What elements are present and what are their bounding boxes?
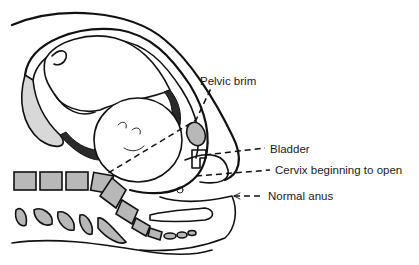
label-anus: Normal anus	[268, 190, 333, 203]
rectum	[150, 208, 213, 222]
perineum	[140, 196, 235, 251]
anatomy-diagram: Pelvic brim Bladder Cervix beginning to …	[0, 0, 419, 265]
pelvis-illustration	[0, 0, 419, 265]
spinous-processes	[16, 209, 126, 243]
fetal-head	[94, 98, 182, 182]
label-cervix: Cervix beginning to open	[275, 164, 402, 177]
label-bladder: Bladder	[270, 143, 310, 156]
label-pelvic-brim: Pelvic brim	[200, 75, 256, 88]
pubic-symphysis	[183, 120, 208, 149]
bladder-leader	[205, 148, 265, 155]
back-outline	[12, 241, 212, 255]
